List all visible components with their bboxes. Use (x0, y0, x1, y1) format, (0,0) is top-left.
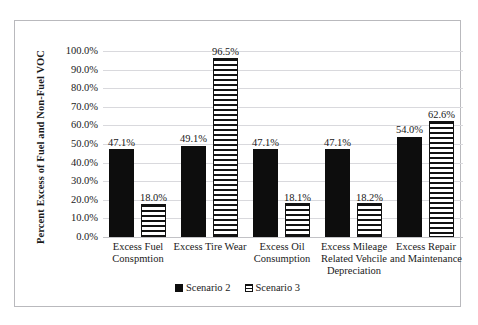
plot-area: 100.0%90.0%80.0%70.0%60.0%50.0%40.0%30.0… (103, 51, 463, 237)
bar-scenario-2[interactable]: 49.1% (181, 146, 206, 237)
bar-value-label: 54.0% (396, 125, 423, 136)
legend-item-label: Scenario 2 (186, 283, 231, 294)
bar-value-label: 47.1% (108, 138, 135, 149)
bar-group: 47.1%18.2%Excess Mileage Related Vehcile… (319, 51, 391, 237)
legend-item-scenario-3[interactable]: Scenario 3 (245, 283, 301, 294)
bar-group: 47.1%18.1%Excess Oil Consumption (247, 51, 319, 237)
bar-group: 54.0%62.6%Excess Repair and Maintenance (391, 51, 463, 237)
bar-value-label: 47.1% (252, 138, 279, 149)
bar-scenario-2[interactable]: 47.1% (253, 149, 278, 237)
y-tick-label-text: 60.0% (71, 120, 98, 131)
bar-value-label: 96.5% (212, 47, 239, 58)
category-label: Excess Repair and Maintenance (389, 241, 463, 265)
gridline (103, 237, 463, 238)
striped-square-icon (245, 284, 253, 292)
y-tick-label-text: 100.0% (66, 46, 98, 57)
bar-scenario-3[interactable]: 18.1% (285, 203, 310, 237)
y-tick-label-text: 30.0% (71, 176, 98, 187)
bar-scenario-2[interactable]: 54.0% (397, 137, 422, 237)
category-label: Excess Oil Consumption (245, 241, 319, 265)
bar-scenario-2[interactable]: 47.1% (325, 149, 350, 237)
y-axis-title: Percent Excess of Fuel and Non-Fuel VOC (33, 49, 49, 244)
y-tick-label-text: 0.0% (76, 232, 98, 243)
y-tick-label-text: 90.0% (71, 64, 98, 75)
category-label: Excess Fuel Conspmtion (101, 241, 175, 265)
y-tick-label-text: 20.0% (71, 195, 98, 206)
bar-value-label: 49.1% (180, 134, 207, 145)
bar-group: 47.1%18.0%Excess Fuel Conspmtion (103, 51, 175, 237)
y-tick-label-text: 50.0% (71, 139, 98, 150)
bar-scenario-3[interactable]: 62.6% (429, 121, 454, 237)
y-tick-label-text: 80.0% (71, 83, 98, 94)
bar-scenario-3[interactable]: 18.2% (357, 203, 382, 237)
solid-black-square-icon (175, 284, 183, 292)
bar-value-label: 62.6% (428, 110, 455, 121)
bar-group: 49.1%96.5%Excess Tire Wear (175, 51, 247, 237)
bar-scenario-3[interactable]: 96.5% (213, 58, 238, 237)
y-tick-label-text: 40.0% (71, 157, 98, 168)
bar-value-label: 18.0% (140, 193, 167, 204)
legend-item-scenario-2[interactable]: Scenario 2 (175, 283, 231, 294)
bar-scenario-2[interactable]: 47.1% (109, 149, 134, 237)
bar-value-label: 18.1% (284, 193, 311, 204)
category-label: Excess Tire Wear (173, 241, 247, 253)
category-label: Excess Mileage Related Vehcile Depreciat… (317, 241, 391, 278)
chart-legend: Scenario 2Scenario 3 (15, 283, 460, 294)
y-tick-label-text: 70.0% (71, 102, 98, 113)
y-tick-label-text: 10.0% (71, 213, 98, 224)
bar-value-label: 18.2% (356, 193, 383, 204)
bar-scenario-3[interactable]: 18.0% (141, 204, 166, 237)
chart-frame: Percent Excess of Fuel and Non-Fuel VOC … (14, 20, 461, 307)
legend-item-label: Scenario 3 (256, 283, 301, 294)
bar-value-label: 47.1% (324, 138, 351, 149)
